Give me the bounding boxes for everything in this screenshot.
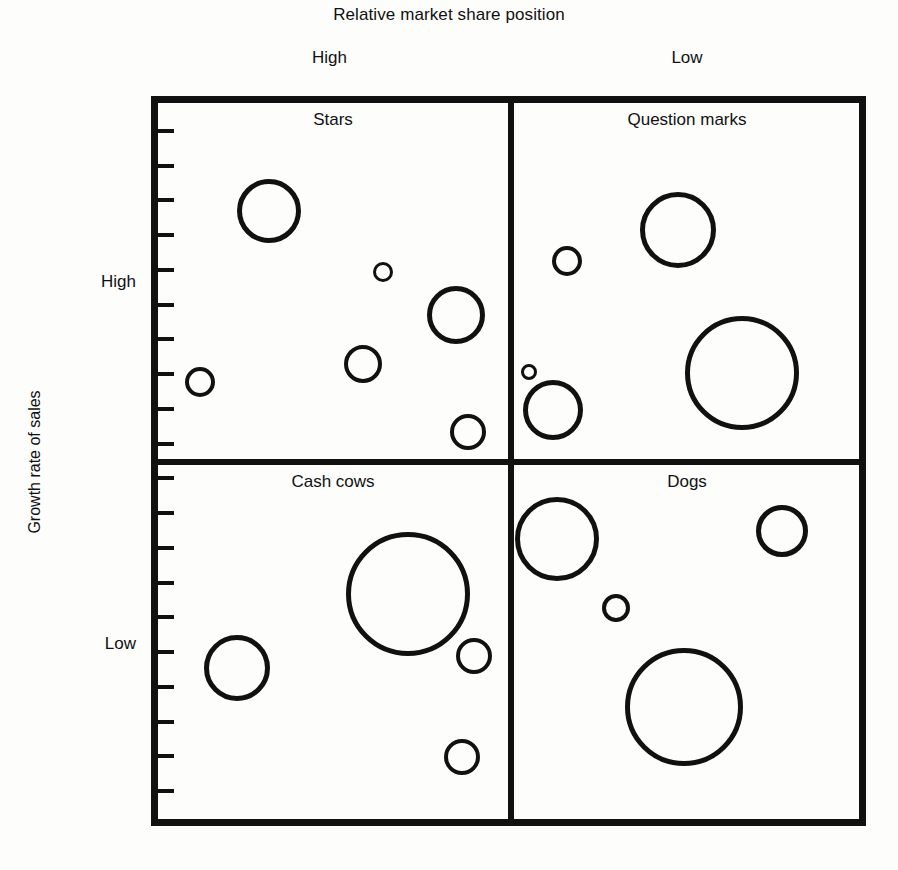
bubble-question-marks: [552, 246, 582, 276]
bubble-cash-cows: [456, 638, 492, 674]
x-axis-tick-high: High: [151, 48, 508, 68]
y-axis-tick-high: High: [58, 272, 136, 292]
bubble-stars: [373, 262, 393, 282]
bubble-question-marks: [523, 380, 583, 440]
quadrant-label-question-marks: Question marks: [514, 110, 860, 130]
bubble-cash-cows: [444, 739, 480, 775]
bubble-dogs: [602, 594, 630, 622]
bubble-cash-cows: [204, 635, 270, 701]
y-axis-tick-mark: [158, 720, 174, 724]
y-axis-tick-mark: [158, 268, 174, 272]
y-axis-tick-mark: [158, 407, 174, 411]
chart-title: Relative market share position: [0, 5, 898, 25]
y-axis-tick-mark: [158, 233, 174, 237]
y-axis-tick-mark: [158, 198, 174, 202]
bubble-stars: [237, 179, 301, 243]
bubble-stars: [450, 414, 486, 450]
y-axis-tick-mark: [158, 303, 174, 307]
quadrant-label-dogs: Dogs: [514, 472, 860, 492]
horizontal-divider: [151, 459, 866, 465]
bubble-question-marks: [640, 192, 716, 268]
y-axis-tick-mark: [158, 442, 174, 446]
y-axis-tick-mark: [158, 164, 174, 168]
bubble-question-marks: [685, 316, 799, 430]
quadrant-label-stars: Stars: [158, 110, 508, 130]
y-axis-tick-mark: [158, 615, 174, 619]
y-axis-tick-mark: [158, 581, 174, 585]
y-axis-tick-mark: [158, 546, 174, 550]
y-axis-tick-mark: [158, 754, 174, 758]
bubble-dogs: [625, 648, 743, 766]
y-axis-tick-mark: [158, 650, 174, 654]
bubble-stars: [185, 367, 215, 397]
y-axis-title: Growth rate of sales: [26, 390, 44, 533]
bubble-dogs: [515, 497, 599, 581]
y-axis-tick-low: Low: [58, 634, 136, 654]
bubble-stars: [427, 286, 485, 344]
y-axis-tick-mark: [158, 372, 174, 376]
y-axis-tick-mark: [158, 511, 174, 515]
bubble-stars: [344, 345, 382, 383]
x-axis-tick-low: Low: [508, 48, 866, 68]
quadrant-label-cash-cows: Cash cows: [158, 472, 508, 492]
y-axis-tick-mark: [158, 685, 174, 689]
bubble-cash-cows: [346, 532, 470, 656]
bubble-question-marks: [521, 364, 537, 380]
y-axis-tick-mark: [158, 789, 174, 793]
y-axis-tick-mark: [158, 337, 174, 341]
bcg-growth-share-matrix: Relative market share position High Low …: [0, 0, 898, 870]
bubble-dogs: [756, 505, 808, 557]
